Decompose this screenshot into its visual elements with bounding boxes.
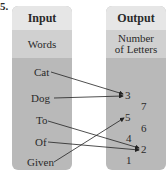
arrow-cat-to-3 [51,72,123,94]
arrow-to-to-2 [48,121,139,148]
mapping-arrows [0,0,168,176]
arrow-dog-to-3 [54,96,123,98]
arrow-of-to-2 [48,142,139,150]
arrow-given-to-5 [54,118,124,162]
